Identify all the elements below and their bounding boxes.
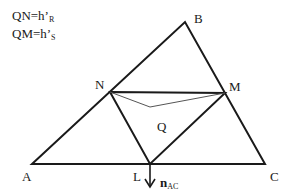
label-b: B: [194, 12, 203, 25]
label-c: C: [270, 170, 279, 183]
label-m: M: [229, 80, 241, 93]
label-l: L: [133, 170, 141, 183]
legend-qm: QM=h’S: [12, 27, 56, 42]
label-q: Q: [157, 120, 166, 133]
label-a: A: [22, 170, 31, 183]
label-n: N: [95, 78, 104, 91]
legend-qn: QN=h’R: [12, 9, 54, 24]
normal-vector-label: nAC: [160, 176, 178, 191]
triangle-nml: [110, 92, 225, 164]
